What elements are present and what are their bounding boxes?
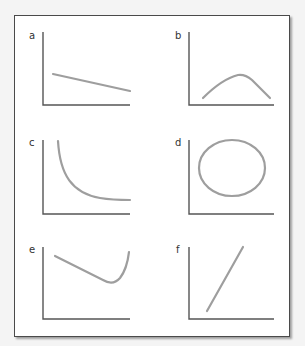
axes-b bbox=[189, 32, 274, 105]
curve-b-inverted-u bbox=[203, 75, 270, 98]
panel-d: d bbox=[175, 137, 274, 214]
graph-panels: a b c d e f bbox=[0, 0, 305, 346]
axes-c bbox=[43, 140, 130, 214]
curve-e-u-shaped bbox=[55, 252, 129, 283]
panel-e: e bbox=[29, 244, 130, 319]
curve-a-linear-decreasing bbox=[53, 74, 130, 91]
panel-label-e: e bbox=[29, 244, 35, 255]
panel-a: a bbox=[29, 30, 130, 105]
panel-label-f: f bbox=[176, 244, 180, 255]
axes-f bbox=[189, 247, 274, 319]
panel-f: f bbox=[176, 244, 274, 319]
panel-label-a: a bbox=[29, 30, 35, 41]
axes-e bbox=[43, 247, 130, 319]
curve-d-ellipse bbox=[199, 140, 265, 196]
panel-c: c bbox=[29, 137, 130, 214]
panel-b: b bbox=[175, 30, 274, 105]
axes-a bbox=[43, 32, 130, 105]
panel-label-c: c bbox=[29, 137, 35, 148]
panel-label-b: b bbox=[175, 30, 181, 41]
curve-c-inverse-decay bbox=[58, 141, 130, 200]
panel-label-d: d bbox=[175, 137, 181, 148]
curve-f-linear-increasing bbox=[207, 247, 243, 311]
